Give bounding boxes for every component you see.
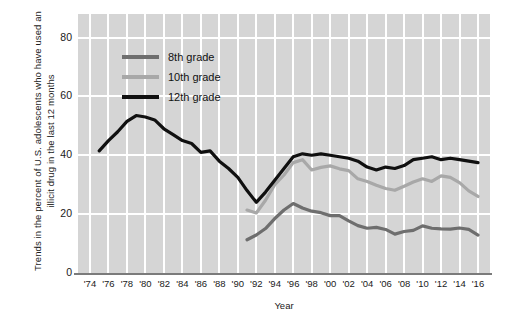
legend-label: 10th grade xyxy=(168,71,221,83)
x-tick-label: '16 xyxy=(463,278,493,289)
legend-item: 10th grade xyxy=(122,67,272,87)
legend-label: 8th grade xyxy=(168,51,214,63)
chart-legend: 8th grade10th grade12th grade xyxy=(122,47,272,107)
legend-swatch-icon xyxy=(122,55,159,59)
legend-item: 8th grade xyxy=(122,47,272,67)
legend-item: 12th grade xyxy=(122,87,272,107)
legend-swatch-icon xyxy=(122,75,159,79)
legend-swatch-icon xyxy=(122,95,159,99)
x-axis-title: Year xyxy=(78,300,490,311)
chart-figure: Trends in the percent of U.S. adolescent… xyxy=(0,0,520,327)
legend-label: 12th grade xyxy=(168,91,221,103)
